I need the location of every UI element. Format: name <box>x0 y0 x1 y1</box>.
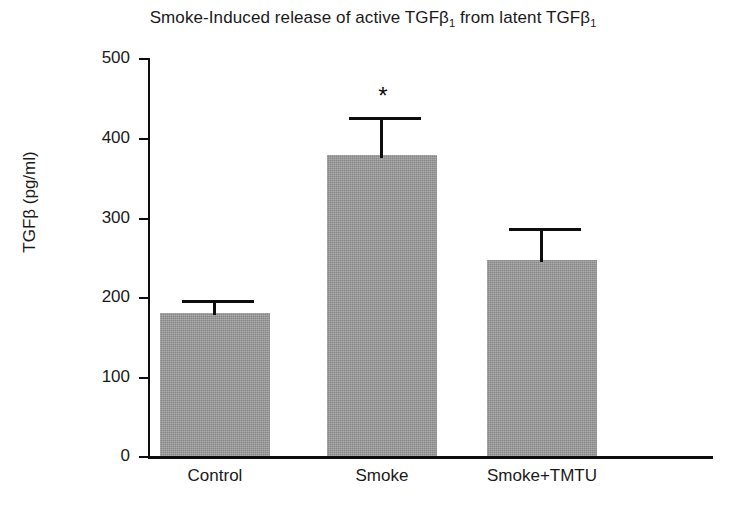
bar-control <box>160 313 270 456</box>
error-bar-stem-control <box>213 301 216 315</box>
x-tick-label-smoke-tmtu: Smoke+TMTU <box>462 466 622 486</box>
error-bar-cap-control <box>182 300 254 303</box>
y-tick-label-500: 500 <box>66 49 130 66</box>
x-tick-label-control: Control <box>155 466 275 486</box>
error-bar-stem-smoke <box>380 118 383 158</box>
x-tick-label-smoke: Smoke <box>322 466 442 486</box>
y-tick-500 <box>139 58 149 60</box>
y-tick-300 <box>139 218 149 220</box>
bar-smoke <box>327 155 437 456</box>
y-tick-label-100: 100 <box>66 368 130 385</box>
y-tick-label-0: 0 <box>66 447 130 464</box>
y-axis-line <box>148 58 150 458</box>
y-tick-400 <box>139 138 149 140</box>
y-tick-0 <box>139 456 149 458</box>
y-tick-200 <box>139 297 149 299</box>
y-tick-label-200: 200 <box>66 288 130 305</box>
error-bar-cap-smoke <box>349 117 421 120</box>
error-bar-cap-smoke-tmtu <box>509 228 581 231</box>
bar-smoke-tmtu <box>487 260 597 456</box>
chart-figure: Smoke-Induced release of active TGFβ1 fr… <box>0 0 746 521</box>
y-tick-label-400: 400 <box>66 129 130 146</box>
y-tick-label-300: 300 <box>66 209 130 226</box>
significance-star-smoke: * <box>368 84 398 108</box>
error-bar-stem-smoke-tmtu <box>540 229 543 262</box>
y-tick-100 <box>139 377 149 379</box>
plot-area: 0 100 200 300 400 500 * <box>0 0 746 521</box>
x-axis-line <box>148 456 713 459</box>
